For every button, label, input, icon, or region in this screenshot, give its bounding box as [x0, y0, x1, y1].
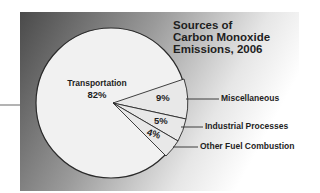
title-line-2: Carbon Monoxide — [173, 31, 270, 43]
industrial-value: 5% — [154, 115, 168, 126]
pie — [36, 28, 188, 178]
industrial-processes-label: Industrial Processes — [205, 121, 288, 131]
transportation-name: Transportation — [67, 78, 127, 88]
miscellaneous-label: Miscellaneous — [221, 93, 279, 103]
other-fuel-combustion-label: Other Fuel Combustion — [200, 141, 294, 151]
transportation-label: Transportation 82% — [67, 78, 127, 100]
miscellaneous-value: 9% — [156, 92, 170, 103]
transportation-value: 82% — [67, 89, 127, 100]
title-line-1: Sources of — [173, 19, 270, 31]
chart-title: Sources of Carbon Monoxide Emissions, 20… — [173, 19, 270, 55]
title-line-3: Emissions, 2006 — [173, 43, 270, 55]
